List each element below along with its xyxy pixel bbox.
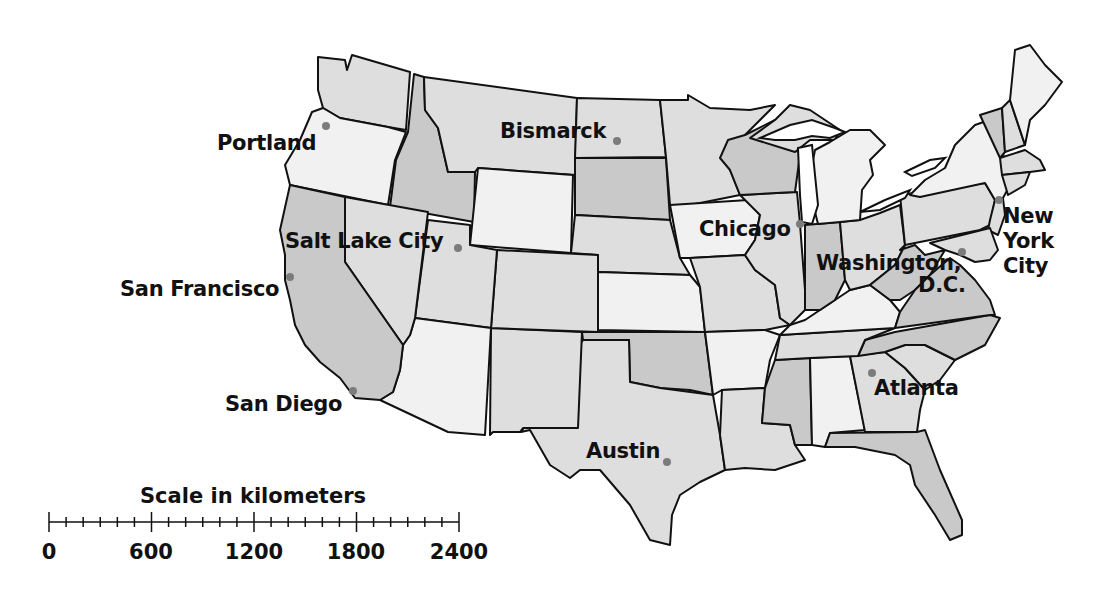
city-label-chicago: Chicago [699,218,791,240]
state-massachusetts [1000,150,1045,175]
state-connecticut [1002,172,1030,195]
city-label-atlanta: Atlanta [874,377,959,399]
city-label-san-diego: San Diego [225,393,342,415]
state-new-mexico [490,328,582,435]
state-colorado [491,250,598,332]
scale-tick-0: 0 [42,540,57,564]
city-dot [322,122,330,130]
city-label-austin: Austin [586,440,660,462]
scale-title: Scale in kilometers [140,484,366,508]
city-dot [663,458,671,466]
state-south-dakota [575,158,670,220]
city-dot [796,220,804,228]
scale-tick-600: 600 [129,540,173,564]
city-dot [613,137,621,145]
city-label-nyc-line3: City [1003,255,1048,277]
city-label-san-francisco: San Francisco [120,278,279,300]
city-dot [995,196,1003,204]
city-dot [454,244,462,252]
city-label-bismarck: Bismarck [500,120,606,142]
scale-tick-1800: 1800 [327,540,385,564]
state-kansas [598,272,705,332]
city-label-washington-line1: Washington, [816,252,961,274]
city-label-washington-line2: D.C. [918,274,966,296]
scale-tick-2400: 2400 [430,540,488,564]
city-dot [286,273,294,281]
city-label-nyc-line2: York [1003,230,1054,252]
scale-tick-1200: 1200 [225,540,283,564]
scale-bar [49,512,459,532]
state-florida [825,430,962,540]
city-label-salt-lake-city: Salt Lake City [285,230,444,252]
city-label-nyc-line1: New [1003,205,1053,227]
state-wyoming [470,168,573,253]
city-label-portland: Portland [217,132,316,154]
city-dot [349,387,357,395]
